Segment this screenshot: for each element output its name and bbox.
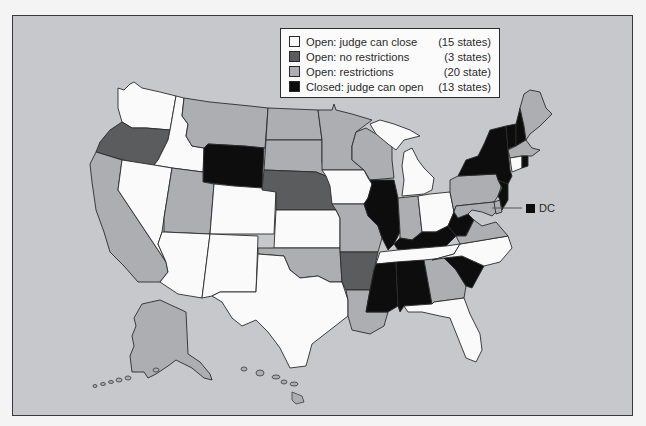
state-hi [241,367,304,404]
state-nd [266,108,322,140]
map-legend: Open: judge can close (15 states) Open: … [280,28,500,98]
state-wy [203,144,264,188]
state-me [520,90,552,140]
state-mt [182,98,268,148]
legend-swatch-white [289,36,300,47]
state-mi [402,148,434,196]
state-vt [506,124,516,150]
dc-annotation: DC [526,202,555,214]
legend-count: (15 states) [438,36,491,48]
legend-label: Open: judge can close [306,36,438,48]
state-ak [130,300,212,380]
legend-swatch-dark-gray [289,51,300,62]
state-nm [202,234,258,298]
dc-swatch [526,204,535,213]
state-ct [510,156,522,172]
dc-label-text: DC [539,202,555,214]
state-ks [274,210,340,248]
legend-label: Open: no restrictions [306,51,444,63]
legend-item-open-judge-can-close: Open: judge can close (15 states) [289,34,491,49]
legend-count: (20 state) [444,66,491,78]
legend-item-open-restrictions: Open: restrictions (20 state) [289,64,491,79]
legend-label: Open: restrictions [306,66,444,78]
state-ri [522,156,528,168]
state-co [210,184,276,234]
legend-count: (13 states) [438,81,491,93]
legend-item-open-no-restrictions: Open: no restrictions (3 states) [289,49,491,64]
legend-label: Closed: judge can open [306,81,438,93]
legend-item-closed-judge-can-open: Closed: judge can open (13 states) [289,79,491,94]
legend-swatch-black [289,81,300,92]
state-wa [118,82,176,130]
legend-count: (3 states) [444,51,491,63]
legend-swatch-light-gray [289,66,300,77]
state-fl [404,298,482,362]
